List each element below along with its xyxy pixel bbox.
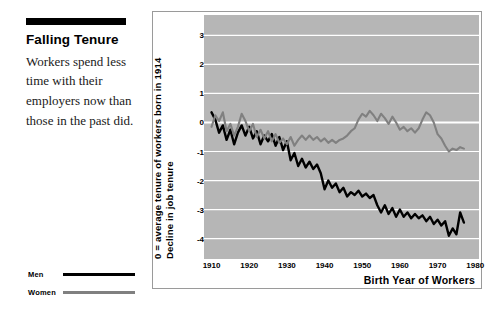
legend-label-men: Men	[28, 270, 61, 279]
y-axis-title-line-1: Decline in job tenure	[164, 161, 175, 259]
y-tick-label: -4	[197, 234, 204, 243]
x-tick-label: 1940	[316, 261, 334, 270]
chart-frame: Decline in job tenure 0 = average tenure…	[152, 11, 482, 289]
y-tick-label: -3	[197, 205, 204, 214]
legend-item-men: Men	[28, 268, 153, 281]
legend: Men Women	[28, 268, 153, 304]
x-tick-label: 1950	[353, 261, 371, 270]
plot-svg	[204, 15, 479, 259]
y-tick-label: -2	[197, 176, 204, 185]
caption-title: Falling Tenure	[26, 32, 148, 48]
legend-swatch-men	[63, 273, 135, 277]
series-line-women	[212, 111, 464, 152]
x-tick-label: 1910	[203, 261, 221, 270]
y-tick-label: -1	[197, 147, 204, 156]
x-tick-label: 1980	[466, 261, 484, 270]
y-axis-tick-labels: 3210-1-2-3-4	[191, 12, 204, 288]
x-axis-tick-labels: 19101920193019401950196019701980	[204, 261, 479, 275]
x-tick-label: 1970	[429, 261, 447, 270]
y-axis-title-line-2: 0 = average tenure of workers born in 19…	[152, 58, 163, 259]
plot-area	[204, 15, 479, 259]
caption-block: Falling Tenure Workers spend less time w…	[26, 18, 148, 131]
caption-rule-bar	[26, 18, 126, 25]
series-layer	[212, 111, 464, 236]
x-tick-label: 1930	[278, 261, 296, 270]
legend-label-women: Women	[28, 288, 61, 297]
legend-swatch-women	[63, 291, 135, 294]
legend-item-women: Women	[28, 286, 153, 299]
x-tick-label: 1920	[240, 261, 258, 270]
x-tick-label: 1960	[391, 261, 409, 270]
caption-body: Workers spend less time with their emplo…	[26, 52, 148, 131]
gridlines	[204, 35, 479, 238]
x-axis-title: Birth Year of Workers	[364, 274, 475, 286]
